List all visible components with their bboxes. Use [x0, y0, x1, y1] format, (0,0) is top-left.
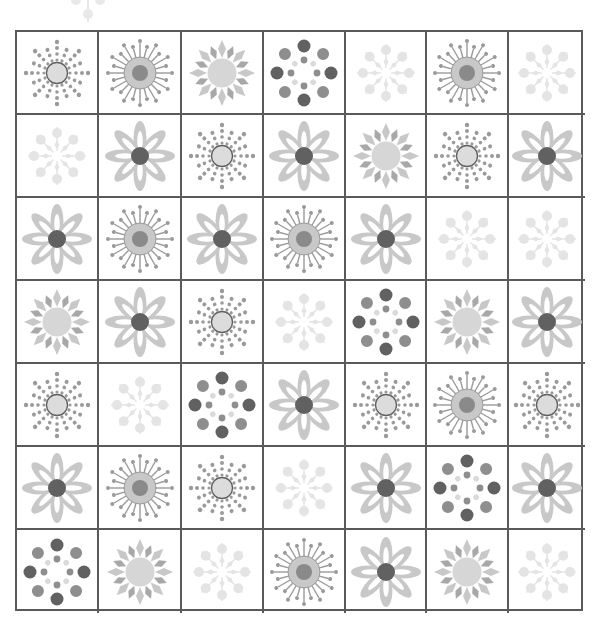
grid-cell-r2-c2[interactable]	[99, 115, 182, 198]
faint-snowflake-icon	[432, 204, 502, 274]
grid-cell-r6-c4[interactable]	[264, 447, 346, 530]
grid-cell-r7-c4[interactable]	[264, 530, 346, 613]
spiky-virus-sun-icon	[432, 38, 502, 108]
diamond-ray-sun-icon	[187, 38, 257, 108]
grid-cell-r5-c5[interactable]	[346, 364, 427, 447]
dotted-sun-icon	[351, 370, 421, 440]
grid-cell-r5-c7[interactable]	[509, 364, 585, 447]
grid-cell-r2-c1[interactable]	[17, 115, 99, 198]
grid-cell-r4-c2[interactable]	[99, 281, 182, 364]
dotted-sun-icon	[512, 370, 582, 440]
grid-cell-r6-c3[interactable]	[182, 447, 264, 530]
grid-cell-r4-c4[interactable]	[264, 281, 346, 364]
spiky-virus-sun-icon	[105, 453, 175, 523]
diamond-ray-sun-icon	[351, 121, 421, 191]
grid-cell-r1-c2[interactable]	[99, 32, 182, 115]
grid-cell-r7-c7[interactable]	[509, 530, 585, 613]
grid-cell-r3-c3[interactable]	[182, 198, 264, 281]
dotted-sun-icon	[22, 38, 92, 108]
daisy-flower-icon	[187, 204, 257, 274]
spiky-virus-sun-icon	[105, 204, 175, 274]
daisy-flower-icon	[105, 287, 175, 357]
grid-cell-r6-c6[interactable]	[427, 447, 509, 530]
grid-cell-r3-c6[interactable]	[427, 198, 509, 281]
grid-cell-r7-c2[interactable]	[99, 530, 182, 613]
dot-ring-icon	[187, 370, 257, 440]
faint-snowflake-icon	[512, 204, 582, 274]
diamond-ray-sun-icon	[432, 537, 502, 607]
dot-ring-icon	[269, 38, 339, 108]
grid-cell-r2-c3[interactable]	[182, 115, 264, 198]
daisy-flower-icon	[269, 121, 339, 191]
grid-cell-r2-c4[interactable]	[264, 115, 346, 198]
faint-snowflake-icon	[105, 370, 175, 440]
grid-cell-r6-c5[interactable]	[346, 447, 427, 530]
daisy-flower-icon	[351, 204, 421, 274]
grid-cell-r1-c6[interactable]	[427, 32, 509, 115]
grid-cell-r4-c1[interactable]	[17, 281, 99, 364]
daisy-flower-icon	[22, 204, 92, 274]
grid-cell-r7-c6[interactable]	[427, 530, 509, 613]
dotted-sun-icon	[432, 121, 502, 191]
dot-ring-icon	[432, 453, 502, 523]
faint-snowflake-icon	[269, 287, 339, 357]
grid-cell-r3-c5[interactable]	[346, 198, 427, 281]
partial-snowflake-icon	[66, 0, 110, 24]
grid-cell-r1-c1[interactable]	[17, 32, 99, 115]
grid-cell-r6-c7[interactable]	[509, 447, 585, 530]
grid-cell-r3-c2[interactable]	[99, 198, 182, 281]
grid-cell-r5-c3[interactable]	[182, 364, 264, 447]
grid-cell-r1-c3[interactable]	[182, 32, 264, 115]
grid-cell-r5-c4[interactable]	[264, 364, 346, 447]
faint-snowflake-icon	[351, 38, 421, 108]
daisy-flower-icon	[105, 121, 175, 191]
spiky-virus-sun-icon	[269, 537, 339, 607]
diamond-ray-sun-icon	[22, 287, 92, 357]
daisy-flower-icon	[351, 453, 421, 523]
grid-cell-r5-c2[interactable]	[99, 364, 182, 447]
grid-cell-r1-c7[interactable]	[509, 32, 585, 115]
faint-snowflake-icon	[269, 453, 339, 523]
grid-cell-r4-c3[interactable]	[182, 281, 264, 364]
daisy-flower-icon	[512, 287, 582, 357]
grid-cell-r1-c5[interactable]	[346, 32, 427, 115]
dotted-sun-icon	[22, 370, 92, 440]
grid-cell-r7-c1[interactable]	[17, 530, 99, 613]
diamond-ray-sun-icon	[105, 537, 175, 607]
grid-cell-r3-c4[interactable]	[264, 198, 346, 281]
grid-cell-r2-c6[interactable]	[427, 115, 509, 198]
grid-cell-r1-c4[interactable]	[264, 32, 346, 115]
daisy-flower-icon	[269, 370, 339, 440]
dot-ring-icon	[22, 537, 92, 607]
grid-cell-r6-c1[interactable]	[17, 447, 99, 530]
grid-cell-r2-c5[interactable]	[346, 115, 427, 198]
grid-cell-r4-c6[interactable]	[427, 281, 509, 364]
dot-ring-icon	[351, 287, 421, 357]
dotted-sun-icon	[187, 121, 257, 191]
diamond-ray-sun-icon	[432, 287, 502, 357]
faint-snowflake-icon	[512, 537, 582, 607]
daisy-flower-icon	[22, 453, 92, 523]
icon-grid	[15, 30, 583, 611]
dotted-sun-icon	[187, 453, 257, 523]
spiky-virus-sun-icon	[432, 370, 502, 440]
grid-cell-r7-c3[interactable]	[182, 530, 264, 613]
spiky-virus-sun-icon	[269, 204, 339, 274]
grid-cell-r4-c5[interactable]	[346, 281, 427, 364]
grid-cell-r7-c5[interactable]	[346, 530, 427, 613]
daisy-flower-icon	[351, 537, 421, 607]
dotted-sun-icon	[187, 287, 257, 357]
spiky-virus-sun-icon	[105, 38, 175, 108]
grid-cell-r3-c1[interactable]	[17, 198, 99, 281]
daisy-flower-icon	[512, 121, 582, 191]
daisy-flower-icon	[512, 453, 582, 523]
faint-snowflake-icon	[512, 38, 582, 108]
grid-cell-r6-c2[interactable]	[99, 447, 182, 530]
grid-cell-r5-c1[interactable]	[17, 364, 99, 447]
grid-cell-r3-c7[interactable]	[509, 198, 585, 281]
grid-cell-r5-c6[interactable]	[427, 364, 509, 447]
faint-snowflake-icon	[187, 537, 257, 607]
grid-cell-r2-c7[interactable]	[509, 115, 585, 198]
grid-cell-r4-c7[interactable]	[509, 281, 585, 364]
faint-snowflake-icon	[22, 121, 92, 191]
